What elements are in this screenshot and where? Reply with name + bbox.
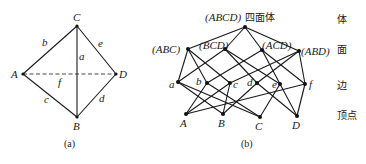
- edge-label-e: e: [98, 37, 103, 49]
- hasse-node-D: [295, 114, 299, 118]
- hasse-edge-e-C: [260, 84, 280, 117]
- edge-b: [23, 26, 77, 74]
- vertex-label-A: A: [10, 68, 18, 80]
- edge-c: [23, 74, 77, 117]
- hasse-node-label-a: a: [169, 78, 175, 90]
- hasse-node-A: [184, 112, 188, 116]
- hasse-node-label-ABCD: (ABCD): [205, 11, 241, 24]
- hasse-node-b: [205, 81, 209, 85]
- hasse-node-label-b: b: [196, 75, 202, 87]
- tetrahedron-title-suffix: 四面体: [245, 12, 275, 23]
- edge-label-f: f: [58, 76, 63, 88]
- figure-b-caption: (b): [241, 138, 253, 150]
- hasse-node-d: [255, 81, 259, 85]
- hasse-edge-ABC-c: [188, 49, 230, 83]
- figure-a-tetrahedron: beacdfCADB: [10, 11, 127, 132]
- figure-b-hasse-diagram: (ABCD)(ABC)(BCD)(ACD)(ABD)abcdefABCD四面体体…: [152, 11, 357, 132]
- hasse-node-a: [176, 80, 180, 84]
- hasse-node-label-c: c: [233, 78, 238, 90]
- vertex-label-C: C: [73, 11, 81, 23]
- edge-d: [77, 74, 116, 117]
- hasse-node-label-f: f: [309, 78, 314, 90]
- hasse-node-f: [303, 82, 307, 86]
- hasse-node-ABCD: [243, 25, 247, 29]
- hasse-node-label-d: d: [247, 76, 253, 88]
- figure-a-caption: (a): [64, 138, 75, 150]
- row-label-2: 边: [337, 80, 347, 91]
- edge-label-a: a: [79, 50, 85, 62]
- row-label-1: 面: [337, 44, 347, 55]
- hasse-node-label-ABC: (ABC): [152, 43, 180, 56]
- hasse-node-c: [228, 81, 232, 85]
- hasse-node-label-B: B: [218, 117, 225, 129]
- hasse-node-C: [258, 115, 262, 119]
- hasse-edge-ACD-f: [262, 50, 305, 84]
- vertex-B: [75, 115, 78, 118]
- hasse-node-label-D: D: [291, 119, 300, 131]
- hasse-node-label-ACD: (ACD): [262, 39, 292, 52]
- vertex-A: [21, 72, 24, 75]
- hasse-node-label-ABD: (ABD): [301, 45, 330, 58]
- hasse-node-label-e: e: [272, 78, 277, 90]
- hasse-node-B: [221, 112, 225, 116]
- vertex-D: [114, 72, 117, 75]
- row-label-0: 体: [337, 14, 347, 25]
- hasse-edge-f-D: [297, 84, 305, 116]
- hasse-node-label-A: A: [179, 117, 187, 129]
- row-label-3: 顶点: [337, 110, 357, 121]
- vertex-label-D: D: [118, 68, 127, 80]
- hasse-node-label-C: C: [255, 120, 263, 132]
- hasse-node-ABC: [186, 47, 190, 51]
- hasse-node-label-BCD: (BCD): [199, 39, 229, 52]
- tetrahedron-figure: beacdfCADB (a) (ABCD)(ABC)(BCD)(ACD)(ABD…: [0, 0, 366, 164]
- vertex-C: [75, 24, 78, 27]
- hasse-node-e: [278, 82, 282, 86]
- hasse-edge-e-D: [280, 84, 297, 116]
- vertex-label-B: B: [73, 120, 80, 132]
- edge-label-c: c: [44, 93, 49, 105]
- edge-label-b: b: [42, 36, 48, 48]
- edge-label-d: d: [99, 92, 105, 104]
